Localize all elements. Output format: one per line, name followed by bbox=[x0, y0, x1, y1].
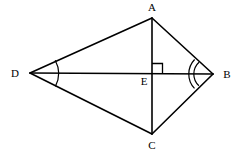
side-AB bbox=[152, 18, 213, 74]
side-DA bbox=[30, 18, 152, 73]
vertex-label-A: A bbox=[148, 2, 156, 13]
side-CD bbox=[30, 73, 152, 134]
right-angle-marker-at-E bbox=[152, 64, 163, 75]
vertex-label-B: B bbox=[223, 69, 230, 80]
vertex-label-E: E bbox=[141, 76, 148, 87]
geometry-canvas bbox=[0, 0, 241, 154]
diagonal-DB bbox=[30, 73, 213, 74]
geometry-figure: A B C D E bbox=[0, 0, 241, 154]
vertex-label-C: C bbox=[148, 140, 155, 151]
side-BC bbox=[152, 74, 213, 134]
vertex-label-D: D bbox=[11, 68, 19, 79]
